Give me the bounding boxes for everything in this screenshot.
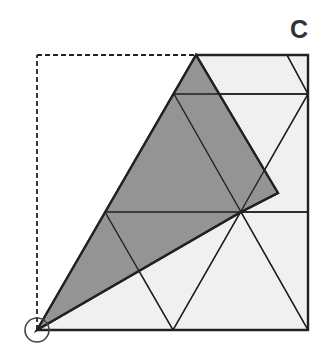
step-label: C <box>290 15 308 43</box>
fold-diagram: C <box>0 0 335 362</box>
